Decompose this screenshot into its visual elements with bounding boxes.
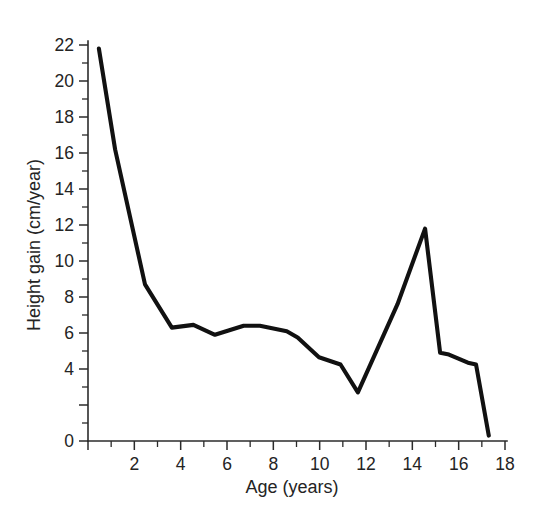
y-tick-label: 12 (55, 215, 74, 235)
x-tick-label: 18 (495, 454, 514, 474)
y-axis-title: Height gain (cm/year) (24, 159, 44, 331)
y-tick-label: 8 (64, 287, 74, 307)
series-line-height-velocity (99, 49, 489, 436)
x-axis-ticks (88, 441, 505, 450)
line-chart-plot: 046810121416182022 24681012141618 Height… (0, 0, 537, 526)
x-tick-label: 8 (268, 454, 278, 474)
x-tick-label: 14 (403, 454, 423, 474)
x-tick-label: 6 (222, 454, 232, 474)
x-tick-label: 2 (129, 454, 139, 474)
y-tick-label: 14 (55, 179, 75, 199)
data-series-group (99, 49, 489, 436)
y-tick-label: 18 (55, 107, 74, 127)
x-axis-title: Age (years) (245, 477, 338, 497)
y-tick-label: 4 (64, 359, 74, 379)
x-tick-label: 10 (310, 454, 330, 474)
x-tick-label: 4 (176, 454, 186, 474)
y-axis-tick-labels: 046810121416182022 (55, 35, 75, 451)
y-tick-label: 20 (55, 71, 75, 91)
x-tick-label: 12 (356, 454, 375, 474)
y-tick-label: 10 (55, 251, 75, 271)
y-tick-label: 22 (55, 35, 74, 55)
x-axis-tick-labels: 24681012141618 (129, 454, 514, 474)
x-tick-label: 16 (449, 454, 468, 474)
chart-figure: 046810121416182022 24681012141618 Height… (0, 0, 537, 526)
axes-group (88, 41, 507, 441)
y-tick-label: 0 (64, 431, 74, 451)
y-tick-label: 6 (64, 323, 74, 343)
y-tick-label: 16 (55, 143, 74, 163)
y-axis-ticks (79, 45, 88, 441)
